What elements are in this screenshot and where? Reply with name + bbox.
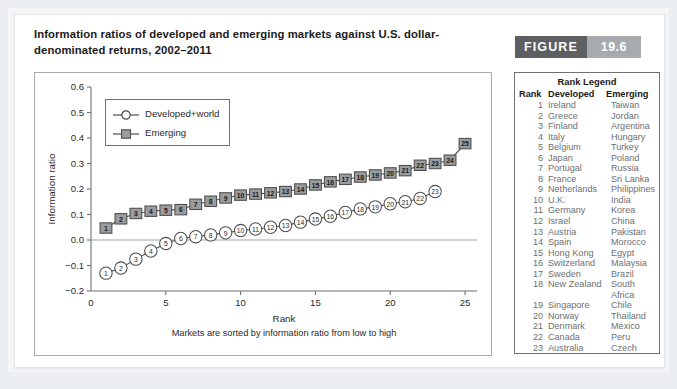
cell-rank: 7 xyxy=(519,163,548,174)
y-tick-label: 0.3 xyxy=(71,158,84,169)
cell-emerging: Brazil xyxy=(611,269,655,280)
cell-rank: 17 xyxy=(519,269,548,280)
table-row: 18New ZealandSouth Africa xyxy=(515,279,659,300)
data-point-label: 11 xyxy=(252,191,259,198)
cell-developed: Netherlands xyxy=(548,184,611,195)
cell-rank: 1 xyxy=(519,100,548,111)
table-row: 10U.K.India xyxy=(515,195,659,206)
data-point-label: 14 xyxy=(297,219,305,226)
data-point-label: 15 xyxy=(312,216,320,223)
cell-rank: 13 xyxy=(519,227,548,238)
data-point-label: 10 xyxy=(237,192,245,199)
header-rank: Rank xyxy=(519,89,548,99)
cell-emerging: Taiwan xyxy=(611,100,655,111)
y-axis-label: Information ratio xyxy=(46,153,57,224)
table-row: 6JapanPoland xyxy=(515,153,659,164)
data-point-label: 21 xyxy=(401,167,409,174)
data-point-label: 23 xyxy=(431,188,439,195)
cell-developed: Finland xyxy=(548,121,611,132)
data-point-label: 25 xyxy=(461,140,469,147)
header-developed: Developed xyxy=(548,89,606,99)
cell-emerging: Peru xyxy=(611,332,655,343)
cell-developed: Belgium xyxy=(548,142,611,153)
data-point-label: 8 xyxy=(209,232,213,239)
x-tick-label: 10 xyxy=(235,297,246,308)
cell-emerging: Argentina xyxy=(611,121,655,132)
figure-screenshot: Information ratios of developed and emer… xyxy=(0,0,677,389)
cell-rank: 5 xyxy=(519,142,548,153)
y-tick-label: 0.5 xyxy=(71,107,84,118)
x-tick-label: 15 xyxy=(310,297,321,308)
data-point-label: 18 xyxy=(357,206,365,213)
figure-badge-number: 19.6 xyxy=(587,36,641,58)
cell-developed: Switzerland xyxy=(548,258,611,269)
legend-label-developed: Developed+world xyxy=(145,108,219,119)
cell-rank: 9 xyxy=(519,184,548,195)
table-row: 15Hong KongEgypt xyxy=(515,248,659,259)
chart-caption: Markets are sorted by information ratio … xyxy=(172,328,397,338)
cell-developed: Austria xyxy=(548,227,611,238)
cell-rank: 20 xyxy=(519,311,548,322)
cell-emerging: Sri Lanka xyxy=(611,174,655,185)
cell-emerging: Egypt xyxy=(611,248,655,259)
table-row: 5BelgiumTurkey xyxy=(515,142,659,153)
table-row: 19SingaporeChile xyxy=(515,300,659,311)
data-point-label: 4 xyxy=(149,208,153,215)
cell-developed: Norway xyxy=(548,311,611,322)
cell-developed: Israel xyxy=(548,216,611,227)
cell-emerging: Philippines xyxy=(611,184,655,195)
data-point-label: 7 xyxy=(194,201,198,208)
cell-emerging: Turkey xyxy=(611,142,655,153)
cell-developed: Ireland xyxy=(548,100,611,111)
rank-legend-header: Rank Developed Emerging xyxy=(515,87,659,100)
data-point-label: 6 xyxy=(179,235,183,242)
table-row: 7PortugalRussia xyxy=(515,163,659,174)
data-point-label: 9 xyxy=(224,230,228,237)
table-row: 12IsraelChina xyxy=(515,216,659,227)
legend-entry-emerging: Emerging xyxy=(113,124,219,140)
cell-emerging: Mexico xyxy=(611,321,655,332)
data-point-label: 24 xyxy=(446,157,454,164)
table-row: 23AustraliaCzech Republic xyxy=(515,343,659,354)
table-row: 21DenmarkMexico xyxy=(515,321,659,332)
cell-developed: Greece xyxy=(548,111,611,122)
cell-emerging: Russia xyxy=(611,163,655,174)
cell-developed: Canada xyxy=(548,332,611,343)
data-point-label: 3 xyxy=(134,256,138,263)
cell-rank: 4 xyxy=(519,132,548,143)
cell-rank: 21 xyxy=(519,321,548,332)
data-point-label: 14 xyxy=(297,186,305,193)
data-point-label: 7 xyxy=(194,233,198,240)
cell-emerging: South Africa xyxy=(611,279,655,300)
y-tick-label: 0.0 xyxy=(71,234,84,245)
table-row: 2GreeceJordan xyxy=(515,111,659,122)
data-point-label: 21 xyxy=(401,199,409,206)
header-emerging: Emerging xyxy=(606,89,655,99)
series-developed: 1234567891011121314151617181920212223 xyxy=(100,185,442,279)
cell-rank: 10 xyxy=(519,195,548,206)
data-point-label: 23 xyxy=(431,160,439,167)
table-row: 13AustriaPakistan xyxy=(515,227,659,238)
data-point-label: 9 xyxy=(224,195,228,202)
data-point-label: 19 xyxy=(371,172,379,179)
cell-emerging: India xyxy=(611,195,655,206)
x-tick-label: 5 xyxy=(163,297,168,308)
cell-emerging: Czech Republic xyxy=(611,343,655,354)
legend-label-emerging: Emerging xyxy=(145,127,186,138)
x-tick-label: 25 xyxy=(460,297,471,308)
cell-emerging: Korea xyxy=(611,205,655,216)
cell-developed: Hong Kong xyxy=(548,248,611,259)
cell-emerging: Pakistan xyxy=(611,227,655,238)
y-tick-label: −0.1 xyxy=(65,260,84,271)
cell-developed: Germany xyxy=(548,205,611,216)
x-tick-label: 0 xyxy=(88,297,93,308)
table-row: 1IrelandTaiwan xyxy=(515,100,659,111)
table-row: 9NetherlandsPhilippines xyxy=(515,184,659,195)
legend-marker-square-icon xyxy=(113,126,139,138)
cell-emerging: Malaysia xyxy=(611,258,655,269)
data-point-label: 16 xyxy=(327,179,335,186)
table-row: 4ItalyHungary xyxy=(515,132,659,143)
y-tick-label: −0.2 xyxy=(65,285,84,296)
y-tick-label: 0.1 xyxy=(71,209,84,220)
cell-emerging: Chile xyxy=(611,300,655,311)
